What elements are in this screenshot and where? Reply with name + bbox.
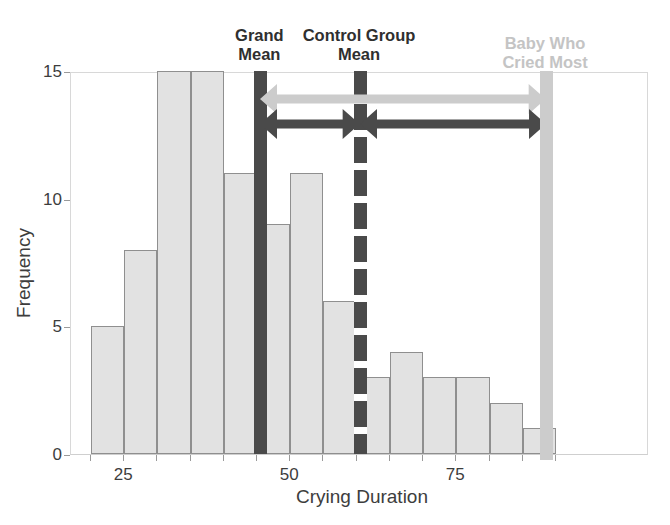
x-tick-label: 50 [280,465,299,485]
x-tick-label: 25 [114,465,133,485]
x-tick-mark [190,455,191,461]
x-tick-mark [489,455,490,461]
x-tick-mark [522,455,523,461]
x-axis-label-text: Crying Duration [296,486,428,508]
x-tick-mark [422,455,423,461]
y-tick-label: 5 [20,317,62,337]
x-tick-mark [156,455,157,461]
y-tick-mark [64,455,70,456]
x-tick-mark [289,455,290,461]
arrow-shape [360,109,546,139]
x-tick-mark [389,455,390,461]
x-tick-mark [223,455,224,461]
control-group-mean-label: Control Group Mean [303,26,416,64]
x-tick-mark [455,455,456,461]
baby-who-cried-most-label: Baby Who Cried Most [502,34,587,72]
grand-mean-label: Grand Mean [235,26,284,64]
x-tick-mark [555,455,556,461]
x-tick-label: 75 [446,465,465,485]
x-tick-mark [123,455,124,461]
x-tick-mark [356,455,357,461]
plot-area [70,72,648,455]
y-tick-label: 0 [20,445,62,465]
x-tick-mark [256,455,257,461]
x-axis-label: Crying Duration [0,486,670,508]
annotation-overlay-layer [71,73,647,454]
x-tick-mark [90,455,91,461]
x-tick-mark [322,455,323,461]
control-mean-to-baby-arrow [358,109,548,139]
baby-who-cried-most-line [540,71,553,460]
histogram-figure: Grand Mean Control Group Mean Baby Who C… [0,0,670,525]
y-tick-label: 15 [20,62,62,82]
y-tick-label: 10 [20,190,62,210]
grand-mean-to-control-mean-arrow [258,109,362,139]
arrow-shape [260,109,360,139]
